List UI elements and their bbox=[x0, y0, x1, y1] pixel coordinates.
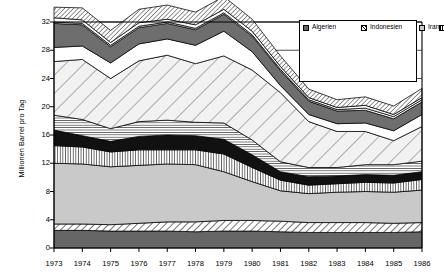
x-tick-label: 1982 bbox=[300, 260, 317, 268]
legend-swatch-icon bbox=[439, 25, 444, 31]
x-tick-label: 1983 bbox=[329, 260, 346, 268]
chart-page: Millionen Barrel pro Tag 048121620242832 bbox=[0, 0, 444, 276]
x-tick-label: 1975 bbox=[102, 260, 119, 268]
x-tick-label: 1981 bbox=[272, 260, 289, 268]
x-tick-label: 1978 bbox=[187, 260, 204, 268]
legend-label: Iran bbox=[428, 24, 439, 31]
legend-label: Algerien bbox=[312, 24, 336, 31]
area-band-algerien bbox=[54, 230, 422, 248]
x-axis-ticks: 1973197419751976197719781979198019811982… bbox=[0, 252, 444, 268]
x-tick-label: 1973 bbox=[46, 260, 63, 268]
x-tick-label: 1977 bbox=[159, 260, 176, 268]
x-tick-label: 1976 bbox=[130, 260, 147, 268]
x-tick-label: 1980 bbox=[244, 260, 261, 268]
legend-label: Indonesien bbox=[370, 24, 402, 31]
chart-legend: AlgerienIndonesienIranKuwaitNigeriaVAEEc… bbox=[299, 20, 417, 82]
x-tick-label: 1985 bbox=[385, 260, 402, 268]
x-tick-label: 1984 bbox=[357, 260, 374, 268]
legend-item-algerien[interactable]: Algerien bbox=[303, 23, 361, 32]
legend-item-iran[interactable]: Iran bbox=[419, 23, 439, 32]
x-tick-label: 1974 bbox=[74, 260, 91, 268]
legend-item-kuwait[interactable]: Kuwait bbox=[439, 23, 444, 32]
legend-item-indonesien[interactable]: Indonesien bbox=[361, 23, 419, 32]
x-tick-label: 1986 bbox=[414, 260, 431, 268]
legend-swatch-icon bbox=[361, 25, 367, 31]
legend-swatch-icon bbox=[303, 25, 309, 31]
legend-swatch-icon bbox=[419, 25, 425, 31]
x-tick-label: 1979 bbox=[215, 260, 232, 268]
